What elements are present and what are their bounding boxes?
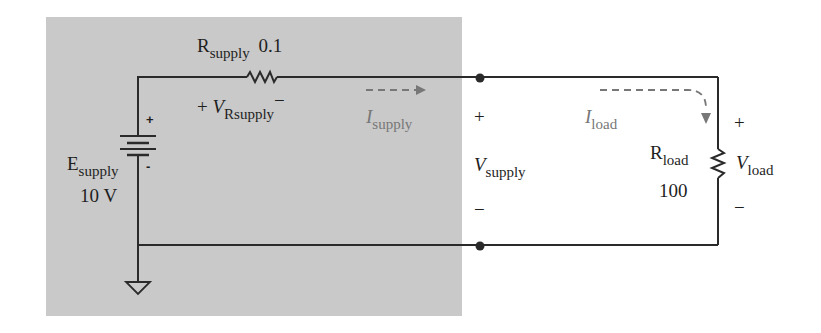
node-top xyxy=(476,74,485,83)
source-label: Esupply xyxy=(67,154,119,179)
supply-resistor-label: Rsupply 0.1 xyxy=(197,36,282,61)
load-voltage-label: Vload xyxy=(736,153,773,178)
supply-voltage-plus: + xyxy=(474,107,485,126)
supply-current-arrow-icon xyxy=(366,85,426,95)
load-resistor-zigzag xyxy=(712,149,724,178)
supply-voltage-minus: − xyxy=(474,200,485,219)
battery-icon xyxy=(120,126,156,166)
node-bottom xyxy=(476,242,485,251)
supply-current-label: Isupply xyxy=(366,107,412,132)
load-resistor-value: 100 xyxy=(659,181,688,200)
supply-voltage-label: Vsupply xyxy=(474,155,526,180)
supply-resistor-value: 0.1 xyxy=(258,35,282,56)
load-voltage-plus: + xyxy=(734,113,745,132)
supply-resistor-zigzag xyxy=(247,72,277,82)
supply-resistor-voltage-label: + VRsupply− xyxy=(197,91,285,122)
load-resistor-label: Rload xyxy=(650,143,689,168)
circuit-wires xyxy=(0,0,821,333)
battery-plus-sign: + xyxy=(146,113,154,126)
battery-minus-sign: - xyxy=(146,160,150,173)
ground-icon xyxy=(126,282,150,294)
load-voltage-minus: − xyxy=(734,198,745,217)
source-value: 10 V xyxy=(80,186,117,205)
load-current-label: Iload xyxy=(585,107,617,132)
